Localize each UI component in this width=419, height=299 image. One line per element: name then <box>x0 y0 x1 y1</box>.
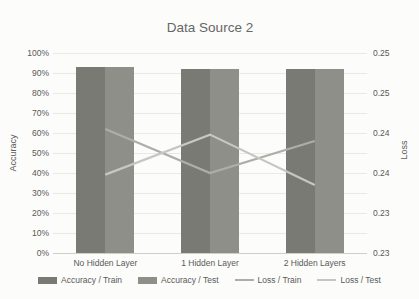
y-axis-tick-label: 100% <box>16 48 49 58</box>
y2-axis-tick-label: 0.23 <box>373 248 403 258</box>
y-axis-tick-label: 50% <box>16 148 49 158</box>
y2-axis-tick-label: 0.24 <box>373 168 403 178</box>
y2-axis-tick-label: 0.25 <box>373 48 403 58</box>
y-axis-tick-label: 20% <box>16 208 49 218</box>
y-axis-tick-label: 80% <box>16 88 49 98</box>
chart-canvas: Data Source 2 Accuracy Loss 100%90%80%70… <box>0 0 419 299</box>
category-label: 2 Hidden Layers <box>265 258 365 268</box>
line-swatch-icon <box>235 279 254 281</box>
y-axis-tick-label: 30% <box>16 188 49 198</box>
legend-label: Loss / Train <box>258 275 302 285</box>
y-axis-tick-label: 40% <box>16 168 49 178</box>
line-swatch-icon <box>317 279 336 281</box>
legend-item-accuracy-train: Accuracy / Train <box>38 275 122 285</box>
legend-label: Accuracy / Test <box>161 275 218 285</box>
y-axis-tick-label: 0% <box>16 248 49 258</box>
y2-axis-tick-label: 0.23 <box>373 208 403 218</box>
legend-item-loss-train: Loss / Train <box>235 275 302 285</box>
plot-area <box>53 53 367 253</box>
bar-swatch-icon <box>138 277 157 284</box>
loss-lines-layer <box>53 53 367 253</box>
y2-axis-tick-label: 0.25 <box>373 88 403 98</box>
y-axis-tick-label: 90% <box>16 68 49 78</box>
y-axis-tick-label: 10% <box>16 228 49 238</box>
y2-axis-tick-label: 0.24 <box>373 128 403 138</box>
x-axis-line <box>53 253 367 254</box>
legend-item-accuracy-test: Accuracy / Test <box>138 275 218 285</box>
legend-item-loss-test: Loss / Test <box>317 275 380 285</box>
category-label: No Hidden Layer <box>55 258 155 268</box>
chart-title: Data Source 2 <box>53 20 367 35</box>
category-label: 1 Hidden Layer <box>160 258 260 268</box>
bar-swatch-icon <box>38 277 57 284</box>
legend-label: Loss / Test <box>340 275 380 285</box>
chart-legend: Accuracy / TrainAccuracy / TestLoss / Tr… <box>0 275 419 285</box>
y-axis-tick-label: 70% <box>16 108 49 118</box>
legend-label: Accuracy / Train <box>61 275 122 285</box>
y-axis-tick-label: 60% <box>16 128 49 138</box>
